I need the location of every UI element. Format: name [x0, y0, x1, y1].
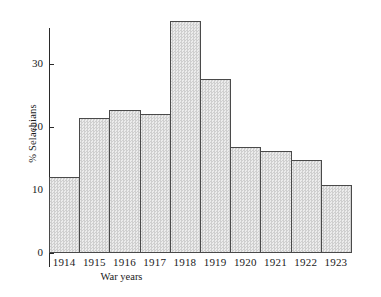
x-tick-label: 1923	[321, 256, 351, 268]
bar	[79, 118, 110, 253]
bar	[291, 160, 322, 253]
x-tick-label: 1920	[230, 256, 260, 268]
bar-series	[49, 14, 351, 253]
bar	[109, 110, 140, 253]
y-axis-label: % Selachians	[27, 79, 38, 189]
bar	[200, 79, 231, 254]
bar	[321, 185, 352, 253]
x-tick-label: 1918	[170, 256, 200, 268]
y-tick-mark	[49, 253, 54, 254]
y-tick-label: 10	[17, 184, 43, 195]
y-tick-label: 0	[17, 247, 43, 258]
bar	[230, 147, 261, 253]
bar	[170, 21, 201, 253]
x-tick-label: 1916	[109, 256, 139, 268]
x-tick-label: 1915	[79, 256, 109, 268]
y-tick-label: 20	[17, 121, 43, 132]
bar	[49, 177, 80, 253]
x-tick-label: 1922	[291, 256, 321, 268]
bar-chart-figure: % Selachians 0102030 1914191519161917191…	[0, 0, 381, 297]
x-tick-label: 1921	[260, 256, 290, 268]
bar	[260, 151, 291, 253]
x-tick-label: 1917	[140, 256, 170, 268]
y-tick-label: 30	[17, 58, 43, 69]
bar	[140, 114, 171, 253]
x-tick-label: 1919	[200, 256, 230, 268]
x-tick-label: 1914	[49, 256, 79, 268]
x-axis-label: War years	[85, 271, 157, 283]
